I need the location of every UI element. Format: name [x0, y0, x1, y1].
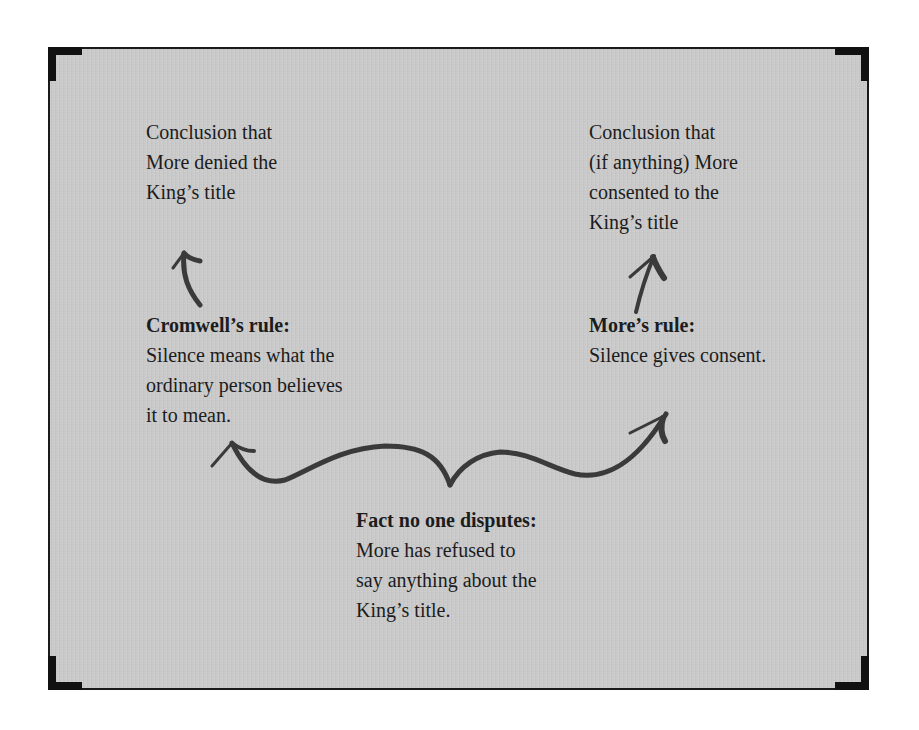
node-text-line: More has refused to: [356, 535, 537, 565]
node-heading: Cromwell’s rule:: [146, 310, 343, 340]
node-text-line: Conclusion that: [589, 117, 738, 147]
node-text-line: King’s title: [146, 177, 277, 207]
node-text-line: King’s title.: [356, 595, 537, 625]
node-text-line: Silence gives consent.: [589, 340, 766, 370]
corner-bracket-top-right: [861, 47, 869, 81]
corner-bracket-bottom-left: [48, 656, 56, 690]
node-text-line: say anything about the: [356, 565, 537, 595]
node-more-rule: More’s rule: Silence gives consent.: [589, 310, 766, 370]
node-text-line: Silence means what the: [146, 340, 343, 370]
node-text-line: consented to the: [589, 177, 738, 207]
node-right-conclusion: Conclusion that (if anything) More conse…: [589, 117, 738, 237]
node-text-line: King’s title: [589, 207, 738, 237]
node-heading: Fact no one disputes:: [356, 505, 537, 535]
node-text-line: (if anything) More: [589, 147, 738, 177]
corner-bracket-bottom-right: [861, 656, 869, 690]
node-text-line: ordinary person believes: [146, 370, 343, 400]
node-left-conclusion: Conclusion that More denied the King’s t…: [146, 117, 277, 207]
node-text-line: it to mean.: [146, 400, 343, 430]
node-cromwell-rule: Cromwell’s rule: Silence means what the …: [146, 310, 343, 430]
node-text-line: More denied the: [146, 147, 277, 177]
node-fact: Fact no one disputes: More has refused t…: [356, 505, 537, 625]
node-heading: More’s rule:: [589, 310, 766, 340]
node-text-line: Conclusion that: [146, 117, 277, 147]
corner-bracket-top-left: [48, 47, 56, 81]
